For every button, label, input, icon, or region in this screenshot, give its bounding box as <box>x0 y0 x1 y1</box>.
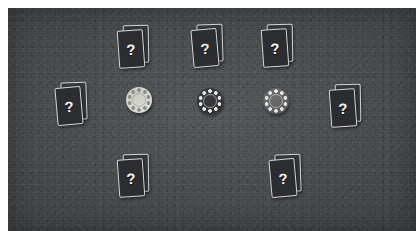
hole-card-front[interactable]: ? <box>329 88 358 128</box>
card-face-down-mark: ? <box>126 170 136 186</box>
hole-card-front[interactable]: ? <box>261 28 290 68</box>
card-pair-bottom-right[interactable]: ?? <box>270 154 304 200</box>
card-pair-left[interactable]: ?? <box>56 82 90 128</box>
card-face-down-mark: ? <box>200 40 210 56</box>
card-face-down-mark: ? <box>64 98 74 114</box>
card-face-down-mark: ? <box>278 170 288 186</box>
hole-card-front[interactable]: ? <box>190 28 219 68</box>
card-pair-right[interactable]: ?? <box>330 84 364 130</box>
hole-card-front[interactable]: ? <box>54 86 83 126</box>
card-pair-top-center[interactable]: ?? <box>192 24 226 70</box>
hole-card-front[interactable]: ? <box>117 29 146 69</box>
hole-card-front[interactable]: ? <box>117 158 146 198</box>
poker-game-screen: ?????????????? <box>0 0 416 231</box>
card-face-down-mark: ? <box>338 100 348 116</box>
poker-table-felt[interactable]: ?????????????? <box>8 8 416 231</box>
hole-card-front[interactable]: ? <box>268 158 297 198</box>
card-face-down-mark: ? <box>270 40 280 56</box>
chip-black[interactable] <box>197 88 223 114</box>
card-pair-top-left[interactable]: ?? <box>118 25 152 71</box>
card-face-down-mark: ? <box>126 41 136 57</box>
chip-white[interactable] <box>126 87 152 113</box>
chip-gray[interactable] <box>263 88 289 114</box>
card-pair-top-right[interactable]: ?? <box>262 24 296 70</box>
card-pair-bottom-left[interactable]: ?? <box>118 154 152 200</box>
